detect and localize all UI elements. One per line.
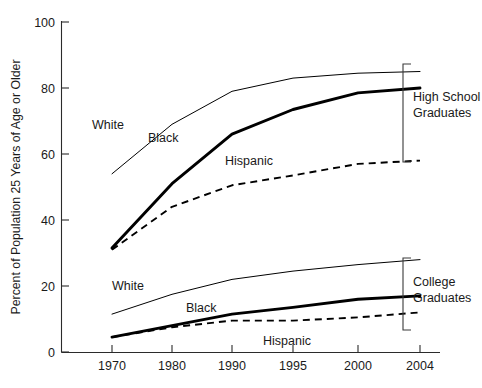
series-line-col-white bbox=[112, 260, 420, 315]
group-label-high-school-line2: Graduates bbox=[413, 106, 471, 120]
group-brackets: High School Graduates College Graduates bbox=[403, 64, 480, 330]
series-line-hs-hispanic bbox=[112, 161, 420, 250]
x-tick-label-1990: 1990 bbox=[218, 359, 246, 373]
bracket-high-school bbox=[403, 64, 411, 162]
y-tick-label-80: 80 bbox=[41, 82, 55, 96]
x-tick-label-1970: 1970 bbox=[98, 359, 126, 373]
x-tick-label-1995: 1995 bbox=[279, 359, 307, 373]
x-tick-label-1980: 1980 bbox=[158, 359, 186, 373]
y-tick-label-60: 60 bbox=[41, 148, 55, 162]
x-tick-label-2000: 2000 bbox=[344, 359, 372, 373]
y-axis-title: Percent of Population 25 Years of Age or… bbox=[9, 60, 23, 315]
educational-attainment-line-chart: 100 80 60 40 20 0 1970 1980 1990 1995 20… bbox=[0, 0, 482, 388]
x-tick-label-2004: 2004 bbox=[406, 359, 434, 373]
series-label-col-hispanic: Hispanic bbox=[263, 334, 311, 348]
series-line-hs-black bbox=[112, 88, 420, 248]
bracket-college bbox=[403, 258, 411, 330]
series-line-col-black bbox=[112, 296, 420, 337]
chart-figure: 100 80 60 40 20 0 1970 1980 1990 1995 20… bbox=[0, 0, 482, 388]
y-tick-label-100: 100 bbox=[34, 16, 55, 30]
cropped-caption-strip bbox=[0, 380, 482, 388]
y-tick-label-40: 40 bbox=[41, 214, 55, 228]
group-label-high-school-line1: High School bbox=[413, 90, 480, 104]
series-label-hs-hispanic: Hispanic bbox=[225, 154, 273, 168]
series-label-hs-black: Black bbox=[148, 131, 179, 145]
y-tick-label-0: 0 bbox=[48, 346, 55, 360]
group-label-college-line1: College bbox=[413, 275, 455, 289]
series-label-col-black: Black bbox=[186, 301, 217, 315]
group-label-college-line2: Graduates bbox=[413, 291, 471, 305]
series-label-col-white: White bbox=[112, 279, 144, 293]
series-group-college bbox=[112, 260, 420, 338]
y-tick-label-20: 20 bbox=[41, 280, 55, 294]
series-label-hs-white: White bbox=[92, 118, 124, 132]
axes bbox=[62, 21, 441, 353]
cropped-caption-text bbox=[6, 380, 482, 384]
x-axis-ticks: 1970 1980 1990 1995 2000 2004 bbox=[98, 345, 434, 373]
y-axis-ticks: 100 80 60 40 20 0 bbox=[34, 16, 69, 360]
